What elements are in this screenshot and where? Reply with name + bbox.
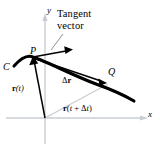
curve-label-C: C xyxy=(3,62,10,72)
position-vector-t-label-arg: (t) xyxy=(16,83,24,93)
vector-calculus-figure: Tangent vector y x P C Q r(t) Δr r(t + Δ… xyxy=(0,0,160,150)
tangent-vector-annotation-line2: vector xyxy=(57,21,91,32)
curve-C-tail xyxy=(96,84,134,101)
y-axis-label: y xyxy=(47,6,51,15)
tangent-vector-arrowhead xyxy=(64,46,73,54)
rtdt-label-close: ) xyxy=(89,103,92,113)
x-axis-arrowhead xyxy=(140,115,148,120)
rtdt-label-plus: + xyxy=(72,103,81,113)
position-vector-t xyxy=(35,63,46,118)
x-axis-label: x xyxy=(148,110,152,119)
tangent-vector-annotation-line1: Tangent xyxy=(57,8,91,19)
point-label-Q: Q xyxy=(108,67,115,77)
delta-r-label-r: r xyxy=(67,75,71,85)
delta-r-label: Δr xyxy=(62,76,71,85)
position-vector-t-label: r(t) xyxy=(12,84,24,93)
tangent-vector-annotation: Tangent vector xyxy=(57,9,91,31)
tangent-label-leader-line xyxy=(51,34,63,50)
tangent-vector-arrow xyxy=(33,51,66,57)
position-vector-t-plus-delta-t-label: r(t + Δt) xyxy=(63,104,92,113)
point-label-P: P xyxy=(30,46,36,56)
